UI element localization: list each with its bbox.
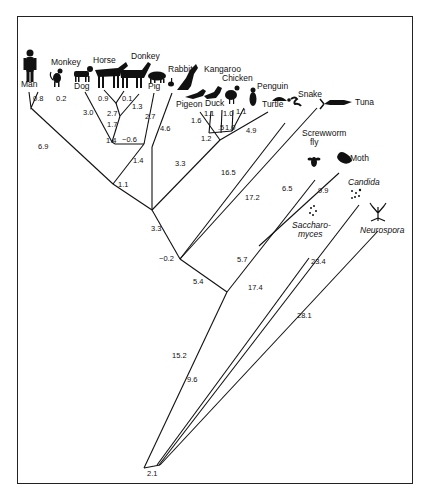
branch-label: 9.9	[318, 186, 328, 195]
phylogenetic-tree: Monkey Man Dog Horse Donkey Pig Rabbit K…	[0, 0, 431, 497]
tree-branches	[29, 90, 378, 468]
taxon-label-snake: Snake	[298, 89, 322, 99]
taxon-label-saccharomyces-2: myces	[298, 229, 323, 239]
monkey-icon	[50, 69, 62, 88]
penguin-icon	[250, 88, 257, 107]
branch-label: 0.1	[122, 94, 132, 103]
branch-label: 0.2	[56, 94, 66, 103]
branch-label: 6.9	[38, 142, 48, 151]
branch-label: 6.5	[282, 184, 292, 193]
taxon-label-moth: Moth	[350, 153, 369, 163]
branch-label: 1.3	[132, 102, 142, 111]
taxon-label-dog: Dog	[74, 81, 90, 91]
branch-label: 1.0	[223, 109, 233, 118]
screwworm-fly-icon	[308, 157, 321, 167]
branch-label: 3.3	[151, 224, 161, 233]
taxon-label-turtle: Turtle	[262, 99, 284, 109]
taxon-label-man: Man	[21, 79, 38, 89]
branch-label: 0.8	[33, 94, 43, 103]
branch-label: −0.2	[159, 254, 174, 263]
taxon-label-screwworm: Screwworm	[302, 128, 346, 138]
branch-label: −0.6	[122, 135, 137, 144]
taxon-label-tuna: Tuna	[355, 97, 374, 107]
branch-label: 2.7	[145, 112, 155, 121]
taxon-label-fly: fly	[310, 137, 319, 147]
branch-label: 28.1	[297, 311, 312, 320]
branch-label: 5.7	[237, 255, 247, 264]
branch-label: 1.4	[133, 156, 143, 165]
branch-label: 16.5	[221, 168, 236, 177]
taxon-label-candida: Candida	[348, 177, 380, 187]
saccharomyces-icon	[309, 205, 317, 216]
branch-label: 15.2	[172, 351, 187, 360]
taxon-label-donkey: Donkey	[131, 51, 161, 61]
branch-label: 23.4	[311, 257, 326, 266]
branch-label: 3.0	[83, 108, 93, 117]
candida-icon	[351, 189, 361, 199]
taxon-label-rabbit: Rabbit	[168, 64, 193, 74]
taxon-label-neurospora: Neurospora	[360, 225, 405, 235]
branch-label: 1.1	[118, 180, 128, 189]
branch-label: 17.2	[245, 193, 260, 202]
branch-label: 1.4	[106, 136, 116, 145]
pigeon-icon	[185, 89, 206, 99]
taxon-label-penguin: Penguin	[257, 81, 288, 91]
branch-label: 3.3	[175, 159, 185, 168]
taxon-label-monkey: Monkey	[51, 57, 82, 67]
taxon-label-horse: Horse	[93, 55, 116, 65]
branch-label: 1.0	[225, 123, 235, 132]
taxon-label-duck: Duck	[205, 98, 225, 108]
chicken-icon	[225, 86, 240, 105]
branch-label: 1.7	[107, 120, 117, 129]
taxon-label-pigeon: Pigeon	[176, 99, 203, 109]
branch-label: 1.6	[191, 116, 201, 125]
branch-label: 2.1	[147, 469, 157, 478]
branch-label: 9.6	[187, 375, 197, 384]
branch-label: 4.6	[160, 124, 170, 133]
branch-label: 1.2	[201, 134, 211, 143]
branch-label: 1.1	[204, 109, 214, 118]
tuna-icon	[320, 99, 352, 109]
branch-label: 1.1	[236, 107, 246, 116]
taxon-label-pig: Pig	[148, 81, 161, 91]
rabbit-icon	[168, 78, 174, 87]
branch-label: 17.4	[248, 283, 263, 292]
branch-label: 0.9	[98, 94, 108, 103]
dog-icon	[74, 66, 93, 82]
branch-label: 2.7	[107, 109, 117, 118]
branch-label: 5.4	[193, 277, 203, 286]
neurospora-icon	[370, 203, 386, 221]
man-icon	[24, 50, 37, 83]
branch-label: 4.9	[246, 126, 256, 135]
taxon-label-chicken: Chicken	[222, 73, 253, 83]
branch-label: .5	[218, 123, 224, 132]
